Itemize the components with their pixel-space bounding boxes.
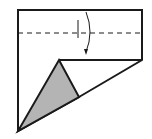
origami-diagram [0, 0, 152, 139]
